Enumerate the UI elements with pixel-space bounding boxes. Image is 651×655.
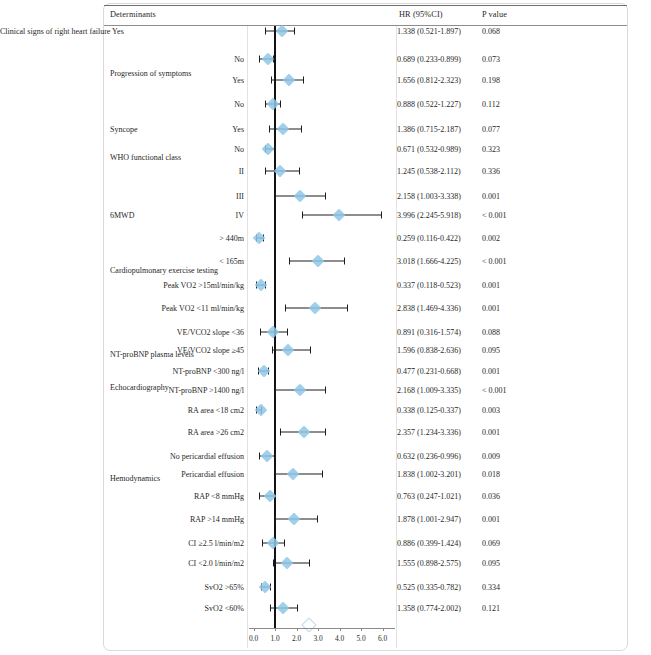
ci-cap-upper xyxy=(287,329,288,336)
hr-ci-value: 1.656 (0.812-2.323) xyxy=(397,76,461,85)
header-bottom-rule xyxy=(104,25,627,26)
hr-ci-value: 1.555 (0.898-2.575) xyxy=(397,559,461,568)
axis-tick-label: 3.0 xyxy=(313,634,322,643)
row-label: IV xyxy=(0,211,244,220)
ci-cap-lower xyxy=(289,258,290,265)
hr-ci-value: 2.357 (1.234-3.336) xyxy=(397,428,461,437)
p-value: 0.088 xyxy=(482,328,500,337)
ci-cap-lower xyxy=(285,305,286,312)
ci-cap-upper xyxy=(284,540,285,547)
ci-cap-upper xyxy=(280,101,281,108)
ci-cap-lower xyxy=(262,540,263,547)
column-header-determinants: Determinants xyxy=(110,10,156,19)
p-value: 0.068 xyxy=(482,27,500,36)
hr-ci-value: 0.888 (0.522-1.227) xyxy=(397,100,461,109)
p-value: 0.336 xyxy=(482,167,500,176)
row-label: No xyxy=(0,55,244,64)
hr-ci-value: 0.671 (0.532-0.989) xyxy=(397,145,461,154)
ci-cap-upper xyxy=(344,258,345,265)
p-value: 0.069 xyxy=(482,539,500,548)
ci-cap-upper xyxy=(325,429,326,436)
ci-cap-upper xyxy=(325,387,326,394)
row-label: VE/VCO2 slope ≥45 xyxy=(0,346,244,355)
ci-cap-lower xyxy=(275,516,276,523)
axis-tick-label: 6.0 xyxy=(378,634,387,643)
row-label: No pericardial effusion xyxy=(0,452,244,461)
hr-ci-value: 0.886 (0.399-1.424) xyxy=(397,539,461,548)
row-label: NT-proBNP <300 ng/l xyxy=(0,367,244,376)
hr-ci-value: 0.525 (0.335-0.782) xyxy=(397,583,461,592)
p-value: 0.036 xyxy=(482,492,500,501)
ci-cap-upper xyxy=(317,516,318,523)
row-label: RA area <18 cm2 xyxy=(0,406,244,415)
ci-cap-upper xyxy=(299,168,300,175)
row-label: CI <2.0 l/min/m2 xyxy=(0,559,244,568)
p-value: 0.077 xyxy=(482,125,500,134)
ci-cap-upper xyxy=(294,28,295,35)
hr-ci-value: 1.838 (1.002-3.201) xyxy=(397,470,461,479)
ci-cap-lower xyxy=(270,605,271,612)
row-label: Yes xyxy=(0,76,244,85)
row-label: < 165m xyxy=(0,257,244,266)
ci-cap-lower xyxy=(265,101,266,108)
axis-tick-label: 2.0 xyxy=(292,634,301,643)
hr-ci-value: 0.338 (0.125-0.337) xyxy=(397,406,461,415)
p-value: < 0.001 xyxy=(482,386,507,395)
p-value: < 0.001 xyxy=(482,211,507,220)
hr-ci-value: 1.386 (0.715-2.187) xyxy=(397,125,461,134)
axis-baseline xyxy=(249,628,395,629)
ci-cap-upper xyxy=(297,605,298,612)
row-label: Yes xyxy=(0,125,244,134)
p-value: 0.121 xyxy=(482,604,500,613)
ci-cap-lower xyxy=(273,560,274,567)
hr-ci-value: 0.689 (0.233-0.899) xyxy=(397,55,461,64)
header-top-rule xyxy=(104,5,627,6)
ci-cap-lower xyxy=(265,168,266,175)
p-value: 0.323 xyxy=(482,145,500,154)
row-label: No xyxy=(0,100,244,109)
ci-cap-lower xyxy=(259,493,260,500)
axis-tick xyxy=(275,628,276,631)
p-value: 0.001 xyxy=(482,428,500,437)
ci-cap-upper xyxy=(275,453,276,460)
row-label: Clinical signs of right heart failure Ye… xyxy=(0,27,110,36)
p-value: 0.095 xyxy=(482,346,500,355)
row-label: NT-proBNP >1400 ng/l xyxy=(0,386,244,395)
ci-cap-lower xyxy=(259,56,260,63)
p-value: 0.001 xyxy=(482,281,500,290)
axis-tick xyxy=(297,628,298,631)
ci-cap-upper xyxy=(322,471,323,478)
ci-cap-upper xyxy=(303,77,304,84)
axis-tick xyxy=(318,628,319,631)
row-label: No xyxy=(0,145,244,154)
ci-cap-lower xyxy=(272,347,273,354)
p-value: 0.018 xyxy=(482,470,500,479)
hr-ci-value: 0.632 (0.236-0.996) xyxy=(397,452,461,461)
ci-cap-upper xyxy=(275,146,276,153)
axis-tick-label: 0.0 xyxy=(249,634,258,643)
hr-ci-value: 3.018 (1.666-4.225) xyxy=(397,257,461,266)
ci-cap-upper xyxy=(309,560,310,567)
axis-tick xyxy=(340,628,341,631)
hr-ci-value: 1.878 (1.001-2.947) xyxy=(397,515,461,524)
plot-panel-left-edge xyxy=(247,26,248,648)
ci-cap-upper xyxy=(381,212,382,219)
p-value: 0.001 xyxy=(482,515,500,524)
p-value: 0.001 xyxy=(482,304,500,313)
p-value: 0.003 xyxy=(482,406,500,415)
p-value: 0.198 xyxy=(482,76,500,85)
ci-cap-upper xyxy=(325,193,326,200)
axis-tick-label: 1.0 xyxy=(270,634,279,643)
hr-ci-value: 1.358 (0.774-2.002) xyxy=(397,604,461,613)
column-header-hr-ci: HR (95%CI) xyxy=(399,10,443,19)
axis-tick xyxy=(361,628,362,631)
hr-ci-value: 2.168 (1.009-3.335) xyxy=(397,386,461,395)
axis-tick-label: 4.0 xyxy=(335,634,344,643)
ci-cap-lower xyxy=(275,387,276,394)
ci-cap-lower xyxy=(259,453,260,460)
p-value: 0.009 xyxy=(482,452,500,461)
hr-ci-value: 0.337 (0.118-0.523) xyxy=(397,281,461,290)
ci-cap-lower xyxy=(302,212,303,219)
hr-ci-value: 0.763 (0.247-1.021) xyxy=(397,492,461,501)
p-value: 0.095 xyxy=(482,559,500,568)
